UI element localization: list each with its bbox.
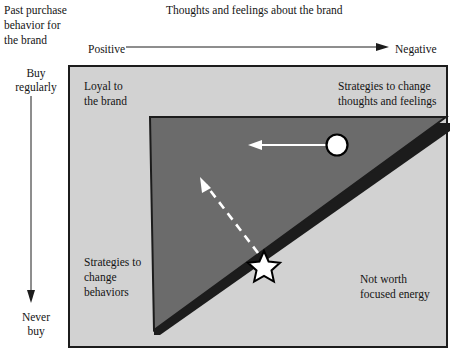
x-axis-arrow-icon: [126, 40, 390, 54]
strategy-matrix: Loyal to the brand Strategies to change …: [68, 65, 448, 348]
solid-arrow-icon: [248, 140, 328, 150]
y-axis-arrow-icon: [24, 96, 38, 304]
quadrant-label-top-left: Loyal to the brand: [84, 79, 204, 109]
quadrant-label-bottom-right: Not worth focused energy: [360, 272, 461, 302]
x-axis-right-label: Negative: [395, 42, 437, 56]
dashed-arrow-icon: [200, 177, 258, 253]
x-axis-title: Thoughts and feelings about the brand: [166, 3, 406, 18]
star-marker[interactable]: [248, 251, 280, 282]
diagram-canvas: Past purchase behavior for the brand Tho…: [0, 0, 461, 362]
x-axis-left-label: Positive: [88, 42, 125, 56]
circle-marker[interactable]: [327, 135, 348, 156]
quadrant-label-bottom-left: Strategies to change behaviors: [84, 255, 194, 300]
marker-overlay: [70, 67, 450, 350]
y-axis-bottom-label: Never buy: [8, 310, 64, 338]
y-axis-title: Past purchase behavior for the brand: [4, 3, 84, 48]
quadrant-label-top-right: Strategies to change thoughts and feelin…: [338, 79, 458, 109]
y-axis-top-label: Buy regularly: [8, 66, 64, 94]
